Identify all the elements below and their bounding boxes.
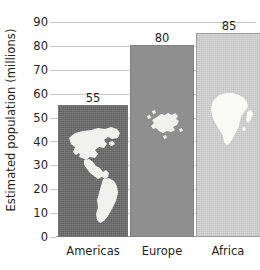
y-tick-label-60: 60	[22, 89, 48, 101]
bar-value-americas: 55	[58, 93, 128, 105]
y-tick-label-40: 40	[22, 137, 48, 149]
plot-area	[56, 22, 256, 237]
category-label-africa: Africa	[196, 246, 260, 258]
bar-europe[interactable]	[130, 45, 194, 237]
y-tick-label-80: 80	[22, 41, 48, 53]
y-axis-title: Estimated population (millions)	[0, 0, 22, 240]
y-tick-label-70: 70	[22, 65, 48, 77]
bar-chart: Estimated population (millions) 90 80 70…	[0, 0, 260, 270]
americas-map-icon	[62, 124, 126, 228]
category-label-europe: Europe	[128, 246, 196, 258]
europe-map-icon	[143, 108, 185, 142]
y-tick-label-10: 10	[22, 208, 48, 220]
bar-value-europe: 80	[130, 33, 194, 45]
y-tick-label-0: 0	[22, 232, 48, 244]
y-axis-title-text: Estimated population (millions)	[4, 29, 18, 212]
y-tick-label-50: 50	[22, 113, 48, 125]
africa-map-icon	[206, 88, 256, 150]
bar-value-africa: 85	[196, 21, 260, 33]
y-tick-label-90: 90	[22, 17, 48, 29]
y-tick-stub-0	[50, 237, 56, 238]
bar-africa[interactable]	[196, 33, 260, 237]
category-label-americas: Americas	[55, 246, 131, 258]
y-tick-label-30: 30	[22, 160, 48, 172]
bar-americas[interactable]	[58, 105, 128, 237]
y-tick-label-20: 20	[22, 184, 48, 196]
